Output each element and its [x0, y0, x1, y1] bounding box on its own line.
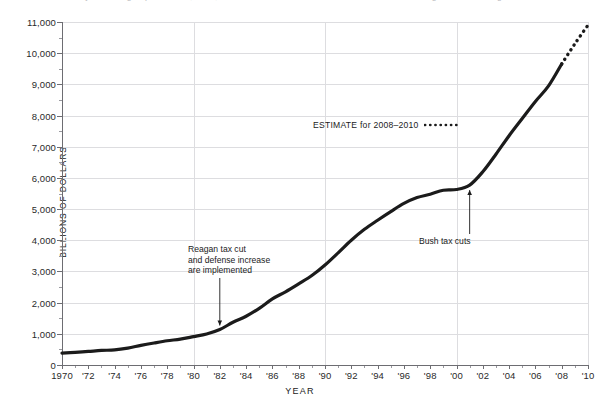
- x-axis-tick-label: '06: [529, 370, 542, 381]
- y-axis-tick-label: 4,000: [32, 235, 56, 246]
- x-axis-tick-label: '78: [161, 370, 174, 381]
- x-axis-tick-label: '96: [398, 370, 411, 381]
- debt-line-chart: fiscal year ending September 30, 2008; 2…: [0, 0, 600, 403]
- y-axis-tick-label: 8,000: [32, 110, 56, 121]
- annotation-bush-arrow: [467, 190, 472, 234]
- x-axis-tick-label: '88: [292, 370, 305, 381]
- y-axis-tick-label: 6,000: [32, 172, 56, 183]
- y-axis-tick-labels: 01,0002,0003,0004,0005,0006,0007,0008,00…: [0, 22, 56, 365]
- y-axis-tick-label: 5,000: [32, 204, 56, 215]
- y-axis-tick-label: 11,000: [27, 17, 56, 28]
- x-axis-tick-label: '10: [582, 370, 595, 381]
- x-axis-tick-label: '72: [82, 370, 95, 381]
- x-axis-tick-label: '00: [450, 370, 463, 381]
- series-layer: [62, 22, 588, 365]
- x-axis-tick-label: '04: [503, 370, 516, 381]
- x-axis-tick-label: '98: [424, 370, 437, 381]
- annotation-bush-label: Bush tax cuts: [419, 236, 505, 247]
- x-axis-tick-labels: 1970'72'74'76'78'80'82'84'86'88'90'92'94…: [62, 366, 589, 382]
- annotation-reagan-arrow: [218, 278, 223, 326]
- gridline-vertical: [588, 22, 589, 365]
- x-axis-tick-label: '94: [371, 370, 384, 381]
- x-axis-tick-label: 1970: [51, 370, 73, 381]
- y-axis-tick-label: 0: [51, 360, 56, 371]
- y-axis-tick-label: 1,000: [32, 328, 56, 339]
- x-axis-tick-label: '82: [213, 370, 226, 381]
- y-axis-tick-label: 2,000: [32, 297, 56, 308]
- x-axis-tick-label: '02: [476, 370, 489, 381]
- series-line: [562, 25, 588, 64]
- y-axis-tick-label: 9,000: [32, 79, 56, 90]
- legend-label: ESTIMATE for 2008–2010: [313, 120, 419, 130]
- y-axis-tick-label: 10,000: [26, 48, 56, 59]
- legend-dotted-swatch: [424, 122, 458, 128]
- y-axis-tick-label: 7,000: [32, 141, 56, 152]
- x-axis-tick-label: '90: [319, 370, 332, 381]
- chart-caption: fiscal year ending September 30, 2008; 2…: [62, 0, 592, 2]
- x-axis-tick-label: '86: [266, 370, 279, 381]
- x-axis-title: YEAR: [0, 386, 600, 396]
- annotation-reagan-label: Reagan tax cut and defense increase are …: [188, 244, 300, 276]
- x-axis-tick-label: '92: [345, 370, 358, 381]
- series-line: [62, 64, 562, 353]
- x-axis-tick-label: '76: [135, 370, 148, 381]
- x-axis-tick-label: '08: [555, 370, 568, 381]
- x-axis-tick-label: '84: [240, 370, 253, 381]
- legend: ESTIMATE for 2008–2010: [313, 120, 458, 130]
- x-axis-tick-label: '74: [108, 370, 121, 381]
- y-axis-tick-label: 3,000: [32, 266, 56, 277]
- x-axis-tick-label: '80: [187, 370, 200, 381]
